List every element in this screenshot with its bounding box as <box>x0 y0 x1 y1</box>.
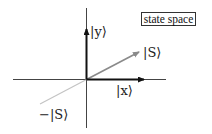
neg-state-line <box>40 80 87 105</box>
y-basis-label: |y⟩ <box>90 24 107 39</box>
state-arrow <box>87 52 140 80</box>
state-label: |S⟩ <box>143 45 161 60</box>
x-basis-label: |x⟩ <box>116 83 133 98</box>
neg-state-label: −|S⟩ <box>39 107 68 122</box>
state-space-diagram: |y⟩ |x⟩ |S⟩ −|S⟩ state space <box>0 0 212 134</box>
title-box-text: state space <box>144 13 194 26</box>
